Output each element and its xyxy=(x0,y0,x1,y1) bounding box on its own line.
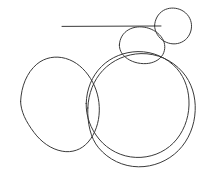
sketch-svg xyxy=(0,0,215,182)
sketch-canvas xyxy=(0,0,215,182)
large-circle-inner-right xyxy=(86,52,189,158)
small-circle-middle xyxy=(119,27,164,64)
large-circle-left xyxy=(21,57,100,152)
